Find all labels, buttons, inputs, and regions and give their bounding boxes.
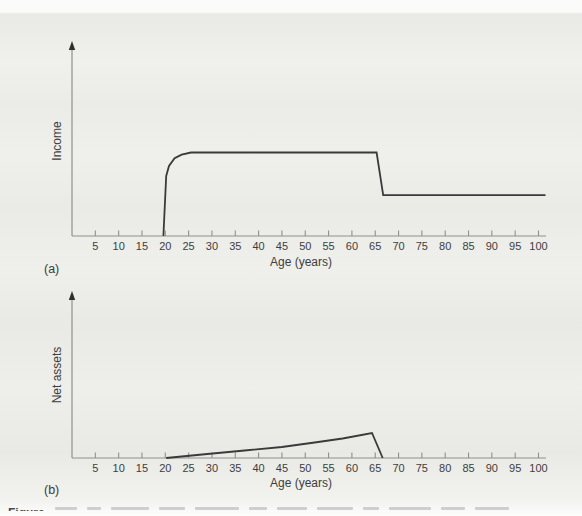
tick-label: 100	[529, 240, 547, 252]
tick-label: 60	[346, 462, 358, 474]
panel-a-label: (a)	[44, 262, 59, 276]
tick-label: 90	[486, 240, 498, 252]
tick-label: 35	[229, 240, 241, 252]
tick-label: 65	[369, 462, 381, 474]
tick-label: 30	[206, 240, 218, 252]
tick-label: 70	[392, 462, 404, 474]
tick-label: 45	[276, 462, 288, 474]
tick-label: 15	[136, 240, 148, 252]
tick-label: 70	[392, 240, 404, 252]
caption-smudge	[277, 507, 307, 510]
tick-label: 85	[462, 240, 474, 252]
caption-smudge	[475, 507, 509, 510]
figure-caption-cutoff: Figure	[8, 506, 574, 511]
tick-label: 50	[299, 240, 311, 252]
net-assets-axis-label: Net assets	[50, 335, 64, 415]
caption-smudge	[363, 507, 379, 510]
tick-label: 55	[322, 462, 334, 474]
caption-smudge	[195, 507, 239, 510]
y-axis-arrow-icon	[69, 291, 75, 300]
tick-label: 80	[439, 462, 451, 474]
tick-label: 15	[136, 462, 148, 474]
tick-label: 75	[416, 240, 428, 252]
tick-label: 90	[486, 462, 498, 474]
tick-label: 75	[416, 462, 428, 474]
tick-label: 10	[113, 240, 125, 252]
tick-label: 5	[92, 240, 98, 252]
tick-label: 85	[462, 462, 474, 474]
tick-label: 5	[92, 462, 98, 474]
tick-label: 45	[276, 240, 288, 252]
caption-smudge	[87, 507, 101, 510]
age-axis-label-b: Age (years)	[241, 476, 361, 490]
age-axis-label-a: Age (years)	[241, 255, 361, 269]
caption-smudge	[55, 507, 77, 510]
tick-label: 35	[229, 462, 241, 474]
panel-b-label: (b)	[44, 483, 59, 497]
tick-label: 100	[529, 462, 547, 474]
tick-label: 50	[299, 462, 311, 474]
tick-label: 95	[509, 240, 521, 252]
tick-label: 30	[206, 462, 218, 474]
caption-smudge	[111, 507, 149, 510]
net-assets-profile-line	[166, 433, 383, 458]
tick-label: 25	[183, 240, 195, 252]
income-axis-label: Income	[50, 101, 64, 181]
caption-smudge	[159, 507, 185, 510]
caption-smudge	[441, 507, 465, 510]
scanned-textbook-page: 5101520253035404550556065707580859095100…	[0, 0, 582, 516]
caption-smudge	[389, 507, 431, 510]
caption-smudge	[317, 507, 353, 510]
income-chart: 5101520253035404550556065707580859095100	[0, 0, 582, 258]
caption-text-fragment: Figure	[8, 506, 45, 511]
income-profile-line	[163, 153, 545, 237]
tick-label: 40	[252, 462, 264, 474]
tick-label: 25	[183, 462, 195, 474]
tick-label: 95	[509, 462, 521, 474]
tick-label: 65	[369, 240, 381, 252]
y-axis-arrow-icon	[69, 41, 75, 50]
tick-label: 20	[159, 240, 171, 252]
tick-label: 80	[439, 240, 451, 252]
tick-label: 20	[159, 462, 171, 474]
tick-label: 60	[346, 240, 358, 252]
tick-label: 40	[252, 240, 264, 252]
tick-label: 10	[113, 462, 125, 474]
tick-label: 55	[322, 240, 334, 252]
caption-smudge	[249, 507, 267, 510]
